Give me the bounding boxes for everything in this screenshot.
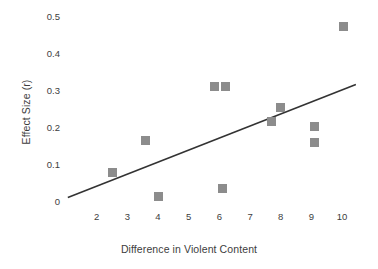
x-axis-title: Difference in Violent Content [0, 243, 378, 255]
data-point-marker [310, 138, 319, 147]
trendline [66, 10, 362, 206]
scatter-plot-figure: Effect Size (r) 00.10.20.30.40.5 2345678… [0, 0, 378, 269]
x-tick-label: 5 [176, 212, 202, 222]
y-tick-label: 0 [20, 197, 60, 207]
data-point-marker [154, 192, 163, 201]
data-point-marker [218, 184, 227, 193]
data-point-marker [141, 136, 150, 145]
data-point-marker [339, 22, 348, 31]
data-point-marker [310, 122, 319, 131]
x-tick-label: 8 [268, 212, 294, 222]
plot-area [66, 10, 362, 206]
x-tick-label: 7 [237, 212, 263, 222]
x-tick-label: 2 [84, 212, 110, 222]
data-point-marker [276, 103, 285, 112]
y-tick-label: 0.3 [20, 86, 60, 96]
x-tick-label: 9 [298, 212, 324, 222]
data-point-marker [210, 82, 219, 91]
y-axis-tick-labels: 00.10.20.30.40.5 [16, 10, 60, 206]
y-tick-label: 0.2 [20, 123, 60, 133]
x-tick-label: 3 [114, 212, 140, 222]
x-axis-tick-labels: 2345678910 [66, 212, 362, 226]
y-tick-label: 0.1 [20, 160, 60, 170]
y-tick-label: 0.4 [20, 49, 60, 59]
y-tick-label: 0.5 [20, 12, 60, 22]
data-point-marker [221, 82, 230, 91]
x-tick-label: 4 [145, 212, 171, 222]
data-point-marker [267, 117, 276, 126]
x-tick-label: 6 [206, 212, 232, 222]
x-tick-label: 10 [329, 212, 355, 222]
data-point-marker [108, 168, 117, 177]
